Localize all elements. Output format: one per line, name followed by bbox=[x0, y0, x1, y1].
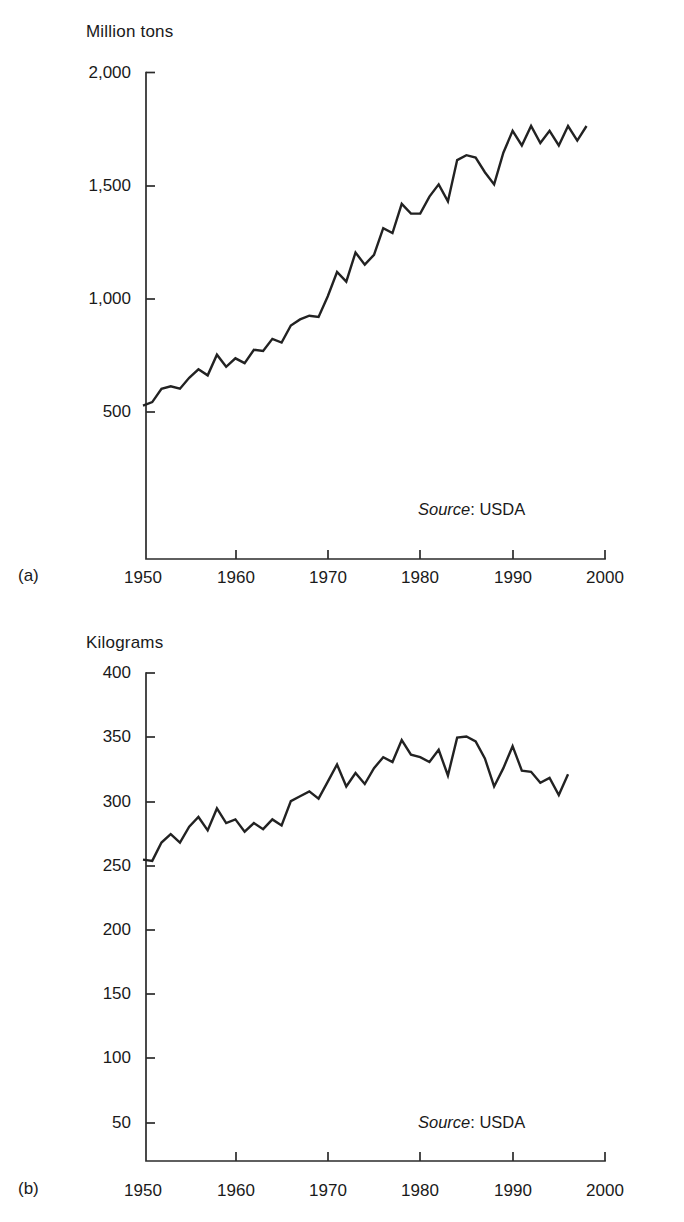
data-series-line bbox=[143, 126, 587, 406]
figure-grain-production: Million tons (a) 2,000 1,500 1,000 500 1… bbox=[0, 0, 684, 611]
plot-area-a bbox=[0, 0, 684, 611]
axis-lines bbox=[146, 73, 605, 560]
figure-grain-per-person: Kilograms (b) 400 350 300 250 200 150 10… bbox=[0, 611, 684, 1222]
axes-a bbox=[146, 73, 605, 560]
data-series-line bbox=[143, 736, 568, 860]
plot-area-b bbox=[0, 611, 684, 1222]
axis-lines bbox=[146, 673, 605, 1161]
axes-b bbox=[146, 673, 605, 1161]
